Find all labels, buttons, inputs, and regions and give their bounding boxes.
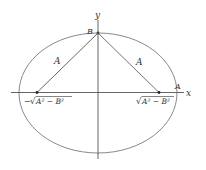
focus-right-radicand: A² − B² (141, 97, 170, 106)
vertex-b-label: B (86, 27, 93, 36)
segment-left-label: A (53, 56, 61, 66)
vertex-a-label: A (174, 82, 181, 91)
y-axis-label: y (94, 10, 101, 20)
x-axis-label: x (186, 88, 191, 98)
focus-left-label: − √ A² − B² (24, 96, 72, 106)
focus-right-label: √ A² − B² (136, 96, 174, 106)
vertex-b-point (97, 32, 100, 35)
focus-left-radicand: A² − B² (35, 97, 64, 106)
focus-left-point (36, 91, 39, 94)
ellipse-diagram: y x B A A A − √ A² − B² √ A² − B² (0, 0, 206, 170)
segment-left (37, 33, 98, 93)
focus-right-point (158, 91, 161, 94)
segment-right (98, 33, 159, 93)
segment-right-label: A (135, 57, 143, 67)
